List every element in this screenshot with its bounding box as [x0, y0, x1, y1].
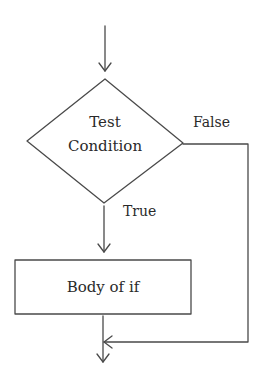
condition-label-line1: Test — [75, 114, 135, 131]
false-branch-path — [104, 144, 248, 348]
flowchart-canvas — [0, 0, 262, 381]
entry-arrow — [99, 26, 111, 71]
process-box-label: Body of if — [15, 279, 191, 296]
true-branch-label: True — [123, 203, 156, 220]
condition-label-line2: Condition — [55, 138, 155, 155]
true-branch-arrow — [98, 206, 110, 252]
false-branch-label: False — [193, 114, 230, 131]
